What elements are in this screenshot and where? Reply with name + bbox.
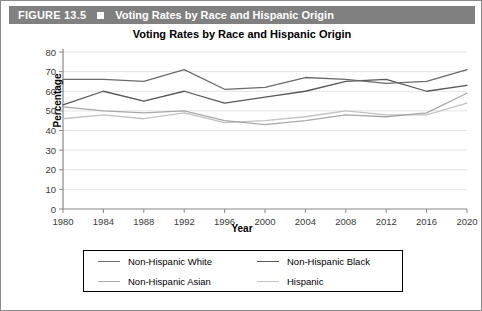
filled-square-icon xyxy=(97,12,104,19)
svg-text:20: 20 xyxy=(45,164,56,175)
legend-label: Non-Hispanic White xyxy=(128,256,212,267)
line-chart-svg: 01020304050607080 1980198419881992199620… xyxy=(1,45,482,235)
legend-line-swatch xyxy=(98,261,120,262)
legend-item-hispanic: Hispanic xyxy=(243,276,402,287)
svg-text:0: 0 xyxy=(51,204,56,215)
svg-text:10: 10 xyxy=(45,184,56,195)
y-axis-label: Percentage xyxy=(52,61,63,141)
figure-header-bar: FIGURE 13.5 Voting Rates by Race and His… xyxy=(9,6,475,24)
x-axis-label: Year xyxy=(1,223,482,234)
legend-item-non-hispanic-white: Non-Hispanic White xyxy=(84,256,243,267)
legend-label: Non-Hispanic Asian xyxy=(128,276,211,287)
legend-label: Hispanic xyxy=(287,276,323,287)
svg-text:30: 30 xyxy=(45,145,56,156)
legend-item-non-hispanic-black: Non-Hispanic Black xyxy=(243,256,402,267)
figure-title: Voting Rates by Race and Hispanic Origin xyxy=(115,9,334,21)
svg-text:80: 80 xyxy=(45,47,56,58)
legend-item-non-hispanic-asian: Non-Hispanic Asian xyxy=(84,276,243,287)
data-series-group xyxy=(63,70,467,125)
chart-legend: Non-Hispanic White Non-Hispanic Black No… xyxy=(83,250,403,292)
figure-container: FIGURE 13.5 Voting Rates by Race and His… xyxy=(0,0,482,311)
chart-title: Voting Rates by Race and Hispanic Origin xyxy=(1,28,482,40)
plot-area: 01020304050607080 1980198419881992199620… xyxy=(1,45,482,235)
legend-label: Non-Hispanic Black xyxy=(287,256,370,267)
legend-line-swatch xyxy=(257,281,279,282)
legend-line-swatch xyxy=(98,281,120,282)
legend-line-swatch xyxy=(257,261,279,262)
axes-group xyxy=(63,49,467,209)
figure-number-label: FIGURE 13.5 xyxy=(18,9,86,21)
